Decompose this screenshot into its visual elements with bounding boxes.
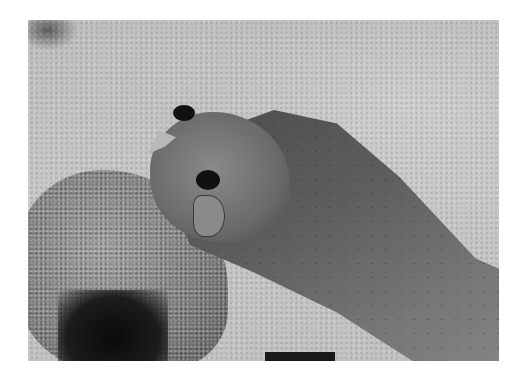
snake-jaw: [193, 195, 225, 237]
dark-shadow: [265, 352, 335, 361]
snake-eye-top: [173, 105, 195, 121]
burrow-shadow: [58, 290, 168, 361]
snake-photograph: [28, 20, 499, 361]
snake-eye-side: [196, 170, 220, 190]
